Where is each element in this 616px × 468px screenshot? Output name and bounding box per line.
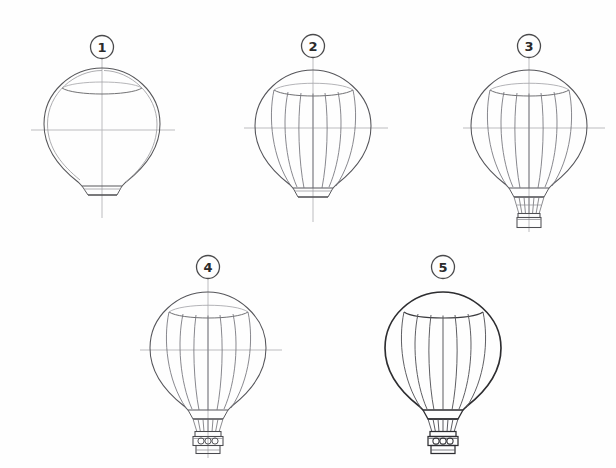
step-5-badge: 5 <box>0 0 616 468</box>
badge-number: 5 <box>438 260 447 275</box>
tutorial-step-5: 5 <box>0 0 616 468</box>
